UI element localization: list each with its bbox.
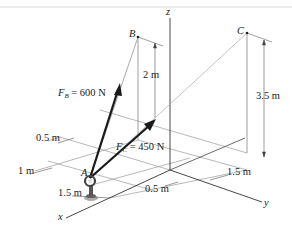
dim-3-5m-label: 3.5 m [256, 90, 280, 101]
force-fc-label: FC = 450 N [115, 141, 165, 154]
y-axis-label: y [263, 197, 269, 208]
dim-2m [154, 43, 157, 118]
point-b [137, 36, 140, 39]
dim-2m-label: 2 m [143, 69, 159, 80]
dim-1-5m-y-label: 1.5 m [227, 166, 251, 177]
dim-0-5m-y-label: 0.5 m [145, 183, 169, 194]
force-diagram: z y x 2 m 3.5 m B C [0, 0, 292, 232]
force-fb-label: FB = 600 N [57, 87, 106, 100]
dim-0-5m-x-label: 0.5 m [36, 132, 60, 143]
point-c [246, 32, 249, 35]
dim-1m-label: 1 m [18, 165, 34, 176]
point-b-label: B [129, 28, 136, 39]
z-axis-label: z [165, 6, 170, 17]
vertical-guides [138, 33, 272, 153]
point-c-label: C [237, 25, 245, 36]
floor-grid [35, 110, 247, 198]
x-axis-label: x [57, 211, 63, 222]
point-a-label: A [80, 167, 88, 178]
